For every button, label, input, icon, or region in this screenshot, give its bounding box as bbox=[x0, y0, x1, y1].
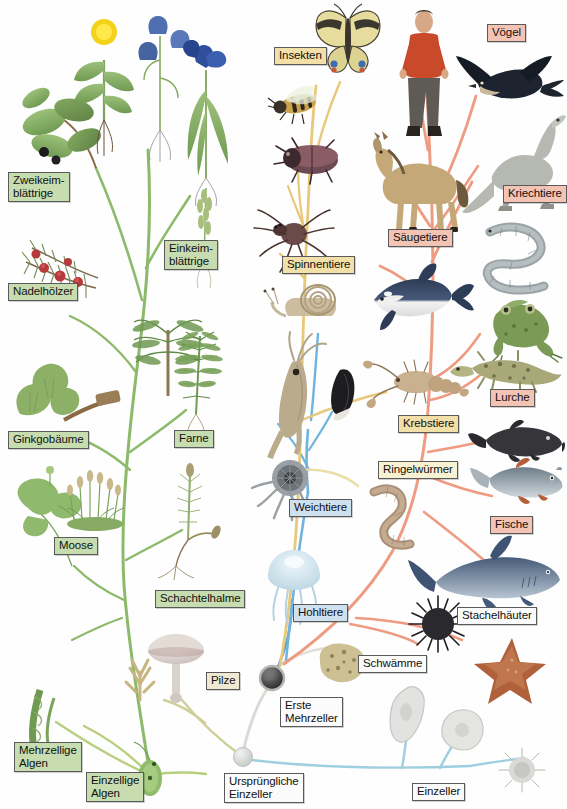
label-insekten: Insekten bbox=[274, 47, 327, 65]
label-stachelhaeuter: Stachelhäuter bbox=[457, 607, 537, 625]
label-schachtelhalme: Schachtelhalme bbox=[155, 590, 245, 608]
tree-of-life-figure: Zweikeim- blättrigeEinkeim- blättrigeNad… bbox=[0, 0, 567, 809]
label-ringelwuermer: Ringelwürmer bbox=[378, 461, 458, 479]
label-weichtiere: Weichtiere bbox=[289, 499, 352, 517]
label-urspruengliche-einzeller: Ursprüngliche Einzeller bbox=[224, 773, 304, 803]
label-hohltiere: Hohltiere bbox=[293, 604, 348, 622]
label-mehrzellige-algen: Mehrzellige Algen bbox=[14, 742, 82, 772]
label-moose: Moose bbox=[54, 537, 98, 555]
label-pilze: Pilze bbox=[206, 672, 240, 690]
page-bottom-edge bbox=[0, 800, 567, 809]
label-lurche: Lurche bbox=[490, 389, 535, 407]
label-voegel: Vögel bbox=[487, 24, 526, 42]
label-spinnentiere: Spinnentiere bbox=[282, 256, 355, 274]
node-layer bbox=[0, 0, 567, 809]
label-krebstiere: Krebstiere bbox=[398, 415, 459, 433]
label-einkeimblaettrige: Einkeim- blättrige bbox=[164, 240, 218, 270]
label-zweikeimblaettrige: Zweikeim- blättrige bbox=[8, 172, 70, 202]
label-schwaemme: Schwämme bbox=[358, 655, 427, 673]
label-kriechtiere: Kriechtiere bbox=[503, 185, 567, 203]
label-erste-mehrzeller: Erste Mehrzeller bbox=[280, 697, 343, 727]
label-fische: Fische bbox=[490, 516, 533, 534]
label-farne: Farne bbox=[174, 430, 214, 448]
label-ginkgobaeume: Ginkgobäume bbox=[8, 431, 89, 449]
label-einzellige-algen: Einzellige Algen bbox=[86, 772, 144, 802]
label-saeugetiere: Säugetiere bbox=[388, 229, 453, 247]
label-nadelhoelzer: Nadelhölzer bbox=[8, 283, 78, 301]
root-node bbox=[234, 748, 253, 767]
label-einzeller: Einzeller bbox=[412, 783, 465, 801]
